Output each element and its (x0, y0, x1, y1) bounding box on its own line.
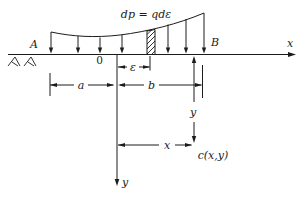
load-arrow (202, 13, 206, 54)
ground-hatch-icon (8, 57, 36, 66)
dim-a-label: a (78, 79, 85, 92)
dim-epsilon-label: ε (130, 61, 136, 74)
point-c-label: c(x,y) (198, 149, 229, 162)
y-axis-arrowhead (115, 179, 120, 186)
dimension-x (118, 143, 192, 147)
diagram-canvas: dp = qdε A B 0 x y a b ε x y c(x,y) (0, 0, 306, 197)
load-arrow (166, 25, 170, 54)
y-axis (115, 55, 120, 187)
point-b-label: B (210, 36, 219, 49)
dim-y-label: y (189, 106, 197, 119)
load-element-strip (147, 30, 155, 55)
load-element-label: dp = qdε (121, 8, 171, 21)
load-arrow (184, 19, 188, 54)
x-axis-arrowhead (288, 52, 296, 57)
load-arrow (49, 32, 53, 54)
dim-b-label: b (148, 79, 155, 92)
dim-x-label: x (164, 139, 171, 152)
y-axis-label: y (121, 176, 129, 189)
dimension-y (192, 56, 196, 143)
point-a-label: A (29, 38, 38, 51)
origin-label: 0 (96, 54, 103, 66)
load-arrow (76, 36, 80, 54)
load-arrow (98, 38, 102, 54)
load-arrow (120, 35, 124, 54)
half-plane-load-diagram: dp = qdε A B 0 x y a b ε x y c(x,y) (0, 0, 306, 197)
x-axis-label: x (287, 37, 294, 50)
